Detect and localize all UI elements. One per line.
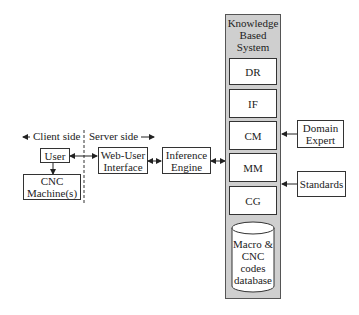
module-cm-label: CM xyxy=(244,130,261,142)
module-mm-label: MM xyxy=(243,162,263,174)
server-side-label: Server side xyxy=(89,130,138,142)
module-cg: CG xyxy=(229,186,277,215)
module-dr-label: DR xyxy=(245,66,260,78)
web-ui-label-2: Interface xyxy=(103,161,142,173)
module-cg-label: CG xyxy=(245,195,260,207)
kbs-title: Knowledge Based System xyxy=(226,17,280,53)
module-if: IF xyxy=(229,89,277,118)
domain-expert-node: Domain Expert xyxy=(297,120,344,148)
standards-node: Standards xyxy=(297,171,346,197)
web-ui-label-1: Web-User xyxy=(101,149,145,161)
inference-label-2: Engine xyxy=(171,161,202,173)
standards-label: Standards xyxy=(300,178,343,190)
inference-label-1: Inference xyxy=(166,149,208,161)
client-side-label: Client side xyxy=(33,130,80,142)
web-user-interface-node: Web-User Interface xyxy=(98,147,148,174)
domain-expert-label-2: Expert xyxy=(306,134,335,146)
domain-expert-label-1: Domain xyxy=(303,122,338,134)
cnc-machines-node: CNC Machine(s) xyxy=(23,174,81,200)
module-dr: DR xyxy=(229,58,277,85)
database-label: Macro & CNC codes database xyxy=(231,238,275,286)
inference-engine-node: Inference Engine xyxy=(162,147,211,174)
user-label: User xyxy=(45,150,66,162)
module-cm: CM xyxy=(229,121,277,150)
module-if-label: IF xyxy=(248,98,258,110)
cnc-machines-label: CNC Machine(s) xyxy=(24,175,80,199)
module-mm: MM xyxy=(229,153,277,182)
user-node: User xyxy=(40,148,70,163)
